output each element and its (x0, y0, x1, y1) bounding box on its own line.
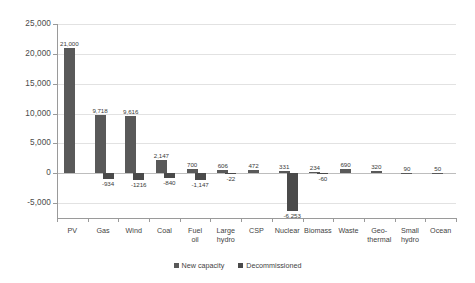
x-tick-mark (395, 218, 396, 222)
bar-value-label: 90 (392, 165, 423, 172)
bar-group: 700-1,147 (180, 24, 211, 218)
x-tick-label: Wind (118, 226, 149, 235)
bar-value-label: 2,147 (146, 152, 177, 159)
bar-group: 690 (333, 24, 364, 218)
x-tick-mark (180, 218, 181, 222)
bar-value-label: 472 (238, 162, 269, 169)
legend-swatch-decommissioned (238, 263, 243, 268)
bar-group: 50 (425, 24, 456, 218)
x-tick-label: Biomass (303, 226, 334, 235)
x-tick-mark (118, 218, 119, 222)
bar-decommissioned (195, 173, 206, 180)
bar-value-label: 21,000 (54, 40, 85, 47)
bar-group: 90 (395, 24, 426, 218)
bar-value-label: 234 (300, 164, 331, 171)
bar-group: 9,718-934 (88, 24, 119, 218)
bar-new-capacity (95, 115, 106, 173)
bar-chart: 21,0009,718-9349,616-12162,147-840700-1,… (0, 0, 475, 283)
x-tick-label: Gas (88, 226, 119, 235)
y-tick-label: -5,000 (0, 198, 51, 207)
bar-new-capacity (371, 171, 382, 173)
x-tick-mark (149, 218, 150, 222)
bar-decommissioned (164, 173, 175, 178)
bar-group: 320 (364, 24, 395, 218)
x-tick-label: Nuclear (272, 226, 303, 235)
x-tick-mark (210, 218, 211, 222)
bar-new-capacity (156, 160, 167, 173)
y-tick-label: 20,000 (0, 49, 51, 58)
bar-new-capacity (248, 170, 259, 173)
bar-value-label: 9,616 (115, 108, 146, 115)
bar-value-label: 700 (177, 161, 208, 168)
bar-decommissioned (317, 173, 328, 174)
bar-value-label: 9,718 (85, 107, 116, 114)
y-tick-label: 25,000 (0, 19, 51, 28)
bar-decommissioned (225, 173, 236, 174)
bar-group: 606-22 (210, 24, 241, 218)
x-axis-line (57, 218, 456, 219)
bar-group: 21,000 (57, 24, 88, 218)
y-tick-label: 0 (0, 168, 51, 177)
x-tick-mark (456, 218, 457, 222)
bar-group: 9,616-1216 (118, 24, 149, 218)
bar-new-capacity (340, 169, 351, 173)
bar-group: 2,147-840 (149, 24, 180, 218)
bar-new-capacity (125, 116, 136, 173)
bar-decommissioned (103, 173, 114, 179)
x-tick-label: PV (57, 226, 88, 235)
x-tick-mark (333, 218, 334, 222)
bar-value-label: 606 (207, 162, 238, 169)
x-tick-mark (272, 218, 273, 222)
x-tick-label: Waste (333, 226, 364, 235)
legend-swatch-new-capacity (174, 263, 179, 268)
legend-label-new-capacity: New capacity (182, 261, 225, 270)
y-tick-label: 5,000 (0, 138, 51, 147)
plot-area: 21,0009,718-9349,616-12162,147-840700-1,… (57, 24, 456, 218)
legend-label-decommissioned: Decommissioned (246, 261, 301, 270)
x-tick-mark (88, 218, 89, 222)
x-tick-label: Coal (149, 226, 180, 235)
bar-value-label: 690 (330, 161, 361, 168)
x-tick-label: Geo- thermal (364, 226, 395, 244)
bar-new-capacity (432, 173, 443, 174)
chart-legend: New capacity Decommissioned (0, 261, 475, 270)
bar-value-label: 331 (269, 163, 300, 170)
bar-decommissioned (287, 173, 298, 210)
y-tick-label: 10,000 (0, 109, 51, 118)
x-tick-label: Fuel oil (180, 226, 211, 244)
x-tick-mark (364, 218, 365, 222)
bar-group: 472 (241, 24, 272, 218)
x-tick-mark (425, 218, 426, 222)
bar-new-capacity (64, 48, 75, 173)
bar-value-label: 50 (422, 165, 453, 172)
x-tick-mark (303, 218, 304, 222)
legend-item-new-capacity: New capacity (174, 261, 225, 270)
x-tick-mark (57, 218, 58, 222)
x-tick-label: Small hydro (395, 226, 426, 244)
y-tick-label: 15,000 (0, 79, 51, 88)
bar-new-capacity (401, 173, 412, 174)
legend-item-decommissioned: Decommissioned (238, 261, 301, 270)
x-tick-label: Ocean (425, 226, 456, 235)
x-tick-label: Large hydro (210, 226, 241, 244)
bar-group: 234-60 (303, 24, 334, 218)
bar-value-label: 320 (361, 163, 392, 170)
bar-decommissioned (133, 173, 144, 180)
x-tick-mark (241, 218, 242, 222)
x-tick-label: CSP (241, 226, 272, 235)
bar-group: 331-6,253 (272, 24, 303, 218)
